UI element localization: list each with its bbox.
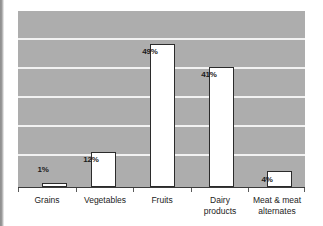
scan-edge-artifact [0, 0, 4, 226]
x-axis-tick [248, 188, 249, 192]
bar-chart: 1% 12% 49% 41% 4% Grains Vegetables Frui… [0, 0, 323, 226]
bar-fruits[interactable] [150, 44, 175, 187]
x-axis-line [18, 187, 305, 188]
bar-value-dairy: 41% [196, 70, 222, 79]
bar-dairy[interactable] [209, 67, 234, 187]
x-axis-label-dairy: Dairy products [191, 195, 249, 217]
x-axis-tick [133, 188, 134, 192]
x-axis-label-fruits: Fruits [133, 195, 191, 206]
bars-layer [18, 11, 305, 187]
bar-value-grains: 1% [30, 165, 56, 174]
x-axis-tick [76, 188, 77, 192]
bar-value-fruits: 49% [137, 47, 163, 56]
x-axis-label-grains: Grains [18, 195, 76, 206]
x-axis-label-vegetables: Vegetables [76, 195, 134, 206]
x-axis-label-meat: Meat & meat alternates [246, 195, 308, 217]
x-axis-tick [18, 188, 19, 192]
x-axis-tick [191, 188, 192, 192]
bar-value-vegetables: 12% [78, 155, 104, 164]
x-axis-tick [304, 188, 305, 192]
bar-value-meat: 4% [254, 175, 280, 184]
